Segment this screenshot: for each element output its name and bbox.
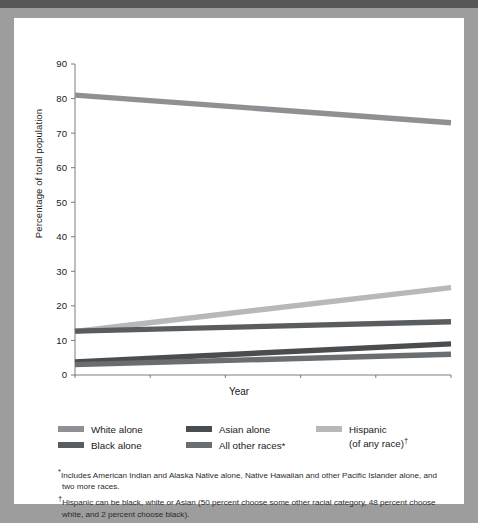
y-axis-tick-labels: 0102030405060708090 bbox=[56, 58, 67, 378]
legend-item-all-other-races[interactable]: All other races* bbox=[186, 438, 285, 454]
y-tick-label: 10 bbox=[56, 335, 67, 346]
y-tick-label: 20 bbox=[56, 300, 67, 311]
legend-column-3: Hispanic (of any race)† bbox=[316, 422, 408, 438]
legend-swatch-asian-alone bbox=[186, 426, 212, 432]
y-tick-label: 90 bbox=[56, 58, 67, 69]
y-axis-ticks bbox=[71, 64, 75, 375]
footnote-dagger-text: Hispanic can be black, white or Asian (5… bbox=[62, 498, 435, 518]
legend-label-all-other-races: All other races* bbox=[219, 438, 285, 453]
y-tick-label: 80 bbox=[56, 93, 67, 104]
footnote-dagger: †Hispanic can be black, white or Asian (… bbox=[58, 497, 442, 519]
y-tick-label: 30 bbox=[56, 266, 67, 277]
figure-card: 0102030405060708090 20002010202020302040… bbox=[14, 18, 464, 504]
data-series-group bbox=[75, 95, 451, 365]
legend-column-2: Asian alone All other races* bbox=[186, 422, 285, 454]
x-axis-title: Year bbox=[14, 386, 464, 397]
y-axis-title: Percentage of total population bbox=[33, 94, 44, 254]
legend-item-asian-alone[interactable]: Asian alone bbox=[186, 422, 285, 438]
y-tick-label: 0 bbox=[62, 369, 67, 378]
legend-label-white-alone: White alone bbox=[91, 422, 143, 437]
chart-plot-area: 0102030405060708090 20002010202020302040… bbox=[14, 18, 464, 378]
legend-label-black-alone: Black alone bbox=[91, 438, 142, 453]
dagger-marker-legend: † bbox=[404, 436, 408, 445]
legend-swatch-black-alone bbox=[58, 442, 84, 448]
top-decorative-band bbox=[0, 0, 478, 8]
y-tick-label: 50 bbox=[56, 197, 67, 208]
legend-item-white-alone[interactable]: White alone bbox=[58, 422, 143, 438]
line-chart-svg: 0102030405060708090 20002010202020302040… bbox=[14, 18, 464, 378]
footnote-asterisk-text: Includes American Indian and Alaska Nati… bbox=[61, 471, 437, 491]
legend-item-hispanic[interactable]: Hispanic (of any race)† bbox=[316, 422, 408, 438]
chart-footnotes: *Includes American Indian and Alaska Nat… bbox=[58, 470, 442, 523]
legend-label-hispanic-main: Hispanic bbox=[349, 424, 387, 435]
legend-swatch-all-other-races bbox=[186, 442, 212, 448]
y-tick-label: 40 bbox=[56, 231, 67, 242]
series-line-white-alone bbox=[75, 95, 451, 123]
legend-swatch-hispanic bbox=[316, 426, 342, 432]
x-axis-ticks bbox=[75, 375, 451, 378]
legend-swatch-white-alone bbox=[58, 426, 84, 432]
y-tick-label: 70 bbox=[56, 128, 67, 139]
legend-column-1: White alone Black alone bbox=[58, 422, 143, 454]
legend-item-black-alone[interactable]: Black alone bbox=[58, 438, 143, 454]
y-tick-label: 60 bbox=[56, 162, 67, 173]
footnote-asterisk: *Includes American Indian and Alaska Nat… bbox=[58, 470, 442, 492]
legend-label-hispanic-sub: (of any race)† bbox=[349, 437, 408, 451]
legend-label-asian-alone: Asian alone bbox=[219, 422, 270, 437]
legend-label-hispanic: Hispanic (of any race)† bbox=[349, 422, 408, 451]
